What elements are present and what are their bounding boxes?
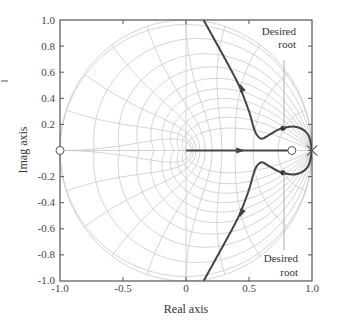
x-tick-label: -0.5 (114, 282, 132, 294)
zero-marker-icon (56, 147, 64, 155)
zeta-grid-line (182, 151, 312, 184)
zeta-grid-line (171, 151, 313, 203)
direction-arrow-icon (236, 148, 245, 154)
y-tick-label: -0.2 (38, 170, 55, 182)
zeta-grid-line (182, 117, 312, 150)
annotation-desired-root-bottom-line1: Desired (264, 252, 299, 264)
wn-grid-line (84, 151, 196, 227)
annotation-desired-root-top-line2: root (278, 38, 296, 50)
zeta-grid-line (118, 151, 312, 248)
y-tick-label: 0.6 (41, 66, 55, 78)
zeta-grid-line (171, 98, 313, 150)
annotation-desired-root-bottom-line2: root (280, 266, 298, 278)
direction-arrow-icon (239, 83, 246, 92)
y-tick-label: 0.4 (41, 92, 55, 104)
y-tick-label: 1.0 (41, 14, 55, 26)
x-axis-title: Real axis (164, 302, 209, 316)
y-tick-label: -1.0 (38, 274, 56, 286)
x-tick-label: 0.5 (242, 282, 256, 294)
x-tick-label: 0 (183, 282, 189, 294)
wn-grid-line (84, 74, 196, 150)
desired-root-marker (281, 126, 286, 131)
desired-root-marker (281, 170, 286, 175)
y-tick-labels: 1.0 0.8 0.6 0.4 0.2 -0.2 -0.4 -0.6 -0.8 … (38, 14, 56, 286)
y-tick-label: -0.8 (38, 248, 56, 260)
y-tick-label: -0.4 (38, 196, 56, 208)
annotation-desired-root-top-line1: Desired (262, 25, 297, 37)
zeta-grid-line (118, 54, 312, 151)
zero-marker-icon (288, 147, 296, 155)
direction-arrow-icon (239, 208, 246, 217)
y-tick-label: 0.2 (41, 118, 55, 130)
direction-arrow-icon (46, 148, 55, 154)
x-tick-labels: -1.0 -0.5 0 0.5 1.0 (51, 282, 319, 294)
zeta-grid-line (137, 67, 312, 151)
root-locus-plot: -1.0 -0.5 0 0.5 1.0 1.0 0.8 0.6 0.4 0.2 … (0, 0, 337, 324)
y-tick-label: -0.6 (38, 222, 56, 234)
y-tick-label: 0.8 (41, 40, 55, 52)
zeta-grid-line (137, 151, 312, 235)
zeta-grid-line (94, 151, 312, 263)
zeta-grid-line (94, 39, 312, 151)
x-tick-label: 1.0 (305, 282, 319, 294)
y-axis-title: Imag axis (16, 126, 30, 173)
